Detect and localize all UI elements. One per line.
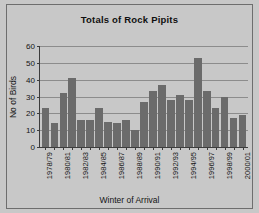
x-axis-tick (72, 147, 73, 150)
bar (203, 91, 211, 147)
x-axis-tick (243, 147, 244, 150)
x-axis-tick-label: 1982/83 (81, 152, 90, 179)
x-axis-tick-label: 1992/93 (171, 152, 180, 179)
y-axis-tick-label: 20 (26, 109, 35, 118)
chart-screenshot: Totals of Rock Pipits No of Birds 010203… (0, 0, 259, 213)
bar (149, 91, 157, 147)
x-axis-tick-label: 1990/91 (153, 152, 162, 179)
bar (221, 97, 229, 148)
x-axis-tick (54, 147, 55, 150)
y-axis-tick-label: 0 (31, 143, 35, 152)
y-axis-tick (37, 46, 40, 47)
x-axis-tick-label: 1996/97 (207, 152, 216, 179)
x-axis-title: Winter of Arrival (7, 195, 252, 205)
y-axis-tick-label: 40 (26, 75, 35, 84)
y-axis-tick (37, 113, 40, 114)
x-axis-tick-label: 1994/95 (189, 152, 198, 179)
bar (113, 123, 121, 147)
bar (239, 115, 247, 147)
bar (140, 102, 148, 147)
bar (95, 108, 103, 147)
bar (51, 123, 59, 147)
x-axis-tick (135, 147, 136, 150)
bar (167, 100, 175, 147)
bar (122, 120, 130, 147)
bar (176, 95, 184, 147)
x-axis-tick (234, 147, 235, 150)
x-axis-tick-label: 1984/85 (99, 152, 108, 179)
bar (77, 120, 85, 147)
x-axis-tick (198, 147, 199, 150)
x-axis-tick (99, 147, 100, 150)
bar (68, 78, 76, 147)
y-axis-title: No of Birds (8, 76, 18, 118)
y-axis-tick (37, 130, 40, 131)
x-axis-tick-label: 1998/99 (225, 152, 234, 179)
x-axis-tick (45, 147, 46, 150)
y-axis-tick-label: 50 (26, 58, 35, 67)
x-axis-tick (162, 147, 163, 150)
x-axis-tick (171, 147, 172, 150)
y-axis-tick (37, 63, 40, 64)
x-axis-tick-label: 1986/87 (117, 152, 126, 179)
plot-area: 0102030405060 1978/791980/811982/831984/… (39, 46, 248, 148)
bar (86, 120, 94, 147)
y-axis-tick (37, 97, 40, 98)
y-axis-tick-label: 30 (26, 92, 35, 101)
bar (104, 122, 112, 147)
x-axis-tick-label: 1980/81 (63, 152, 72, 179)
bar (158, 85, 166, 147)
x-axis-tick-label: 1978/79 (45, 152, 54, 179)
y-axis-tick (37, 147, 40, 148)
x-axis-tick (108, 147, 109, 150)
bar (60, 93, 68, 147)
chart-frame: Totals of Rock Pipits No of Birds 010203… (6, 4, 253, 209)
x-axis-tick-label: 2000/01 (243, 152, 252, 179)
bar (131, 130, 139, 147)
bar-series (40, 46, 248, 147)
x-axis-tick (81, 147, 82, 150)
x-axis-tick (63, 147, 64, 150)
bar (212, 108, 220, 147)
y-axis-tick-label: 60 (26, 42, 35, 51)
y-axis-tick-label: 10 (26, 126, 35, 135)
x-axis-tick (90, 147, 91, 150)
x-axis-tick (144, 147, 145, 150)
bar (194, 58, 202, 147)
x-axis-tick (189, 147, 190, 150)
bar (185, 100, 193, 147)
x-axis-tick (207, 147, 208, 150)
x-axis-tick (216, 147, 217, 150)
bar (42, 108, 50, 147)
x-axis-tick (153, 147, 154, 150)
x-axis-tick (180, 147, 181, 150)
y-axis-tick (37, 80, 40, 81)
x-axis-tick (117, 147, 118, 150)
x-axis-tick-label: 1988/89 (135, 152, 144, 179)
bar (230, 118, 238, 147)
x-axis-tick (126, 147, 127, 150)
x-axis-tick (225, 147, 226, 150)
chart-title: Totals of Rock Pipits (7, 14, 252, 25)
